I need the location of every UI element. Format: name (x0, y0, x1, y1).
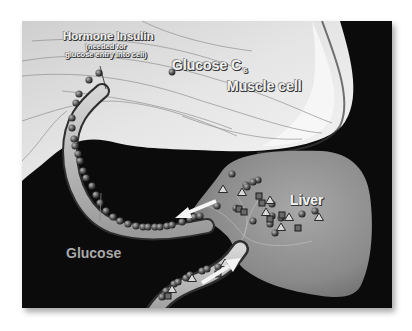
glucose-molecule-icon (116, 217, 123, 224)
glucose-molecule-icon (70, 135, 77, 142)
glycogen-molecule-icon (241, 209, 247, 215)
label-hormone-insulin: Hormone Insulin (63, 30, 154, 42)
glycogen-molecule-icon (165, 293, 171, 299)
glucose-molecule-icon (92, 191, 99, 198)
glucose-molecule-icon (85, 76, 92, 83)
glucose-molecule-icon (298, 210, 305, 217)
glucose-molecule-icon (79, 167, 86, 174)
glucose-molecule-icon (88, 182, 95, 189)
glucose-molecule-icon (109, 213, 116, 220)
glucose-molecule-icon (168, 221, 175, 228)
glucose-molecule-icon (132, 222, 139, 229)
glucose-molecule-icon (82, 174, 89, 181)
label-glucose-c6-subscript: 6 (243, 66, 247, 75)
glucose-molecule-icon (178, 218, 185, 225)
glucose-molecule-icon (124, 220, 131, 227)
glucose-molecule-icon (243, 183, 250, 190)
label-glucose-c6-text: Glucose C (172, 57, 241, 73)
glucose-molecule-icon (68, 114, 75, 121)
glucose-molecule-icon (96, 199, 103, 206)
glucose-molecule-icon (156, 223, 163, 230)
glycogen-molecule-icon (259, 200, 265, 206)
label-muscle-cell: Muscle cell (227, 78, 302, 94)
label-insulin-note: (needed for glucose entry into cell) (54, 43, 158, 59)
glucose-molecule-icon (76, 157, 83, 164)
glucose-molecule-icon (102, 207, 109, 214)
glucose-molecule-icon (174, 278, 181, 285)
label-insulin-note-line2: glucose entry into cell) (54, 51, 158, 59)
glucose-molecule-icon (228, 170, 235, 177)
glucose-molecule-icon (74, 150, 81, 157)
illustration-frame: Hormone Insulin (needed for glucose entr… (22, 21, 392, 308)
glycogen-molecule-icon (279, 212, 285, 218)
glucose-molecule-icon (249, 178, 256, 185)
glucose-molecule-icon (249, 217, 256, 224)
label-glucose-c6: Glucose C6 (172, 57, 248, 75)
glucose-molecule-icon (311, 207, 318, 214)
glucose-molecule-icon (72, 99, 79, 106)
glucose-molecule-icon (144, 223, 151, 230)
label-glucose: Glucose (66, 245, 121, 261)
glycogen-molecule-icon (267, 216, 273, 222)
glucose-molecule-icon (196, 212, 203, 219)
glucose-molecule-icon (71, 142, 78, 149)
glycogen-molecule-icon (295, 225, 301, 231)
glucose-molecule-icon (68, 124, 75, 131)
label-liver: Liver (290, 192, 323, 208)
glucose-molecule-icon (75, 90, 82, 97)
glycogen-molecule-icon (256, 193, 262, 199)
glucose-molecule-icon (203, 265, 210, 272)
